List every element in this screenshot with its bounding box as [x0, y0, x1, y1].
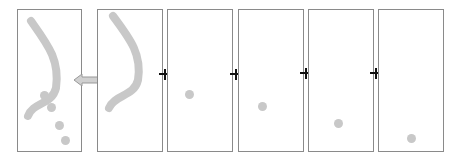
frame-dot-1 — [167, 9, 233, 152]
dot — [55, 121, 64, 130]
frame-dot-3 — [308, 9, 374, 152]
dot — [258, 102, 267, 111]
dot — [185, 90, 194, 99]
dot — [40, 91, 49, 100]
frame-dot-4 — [378, 9, 444, 152]
dot — [61, 136, 70, 145]
dot — [407, 134, 416, 143]
dot — [334, 119, 343, 128]
stroke-curve — [98, 10, 164, 153]
frame-stroke — [97, 9, 163, 152]
dot — [47, 103, 56, 112]
frame-dot-2 — [238, 9, 304, 152]
